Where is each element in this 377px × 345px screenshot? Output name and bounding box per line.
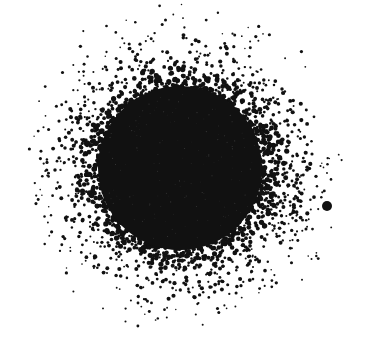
stipple-graphic xyxy=(0,0,377,345)
stipple-illustration xyxy=(0,0,377,345)
isolated-dot xyxy=(322,201,332,211)
dark-core-circle xyxy=(98,86,262,250)
